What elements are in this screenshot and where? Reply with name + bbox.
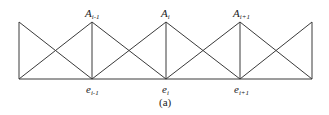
label-e-i: ei [162,83,169,97]
label-e-i-plus-1: ei+1 [234,83,249,97]
truss-diagram: Ai-1 Ai Ai+1 ei-1 ei ei+1 (a) [0,0,329,115]
label-A-i-minus-1: Ai-1 [84,7,100,21]
label-A-i-plus-1: Ai+1 [232,7,250,21]
label-e-i-minus-1: ei-1 [86,83,99,97]
label-A-i: Ai [160,7,170,21]
figure-caption: (a) [159,96,172,109]
